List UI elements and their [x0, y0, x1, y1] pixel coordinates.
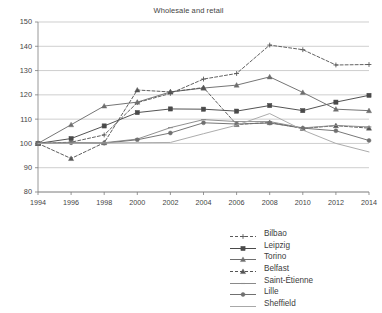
data-point-marker — [367, 62, 372, 67]
data-point-marker — [102, 124, 106, 128]
data-point-marker — [168, 131, 172, 135]
data-point-marker — [135, 138, 139, 142]
data-point-marker — [367, 139, 371, 143]
y-axis-tick-label: 100 — [10, 139, 32, 148]
series-path — [38, 123, 369, 144]
data-point-marker — [69, 122, 74, 127]
legend-marker-icon — [228, 286, 258, 297]
data-point-marker — [135, 110, 139, 114]
series-line-bilbao — [36, 43, 372, 146]
data-point-marker — [69, 141, 73, 145]
data-point-marker — [168, 107, 172, 111]
data-point-marker — [241, 293, 245, 297]
legend-marker-icon — [228, 263, 258, 274]
data-point-marker — [102, 133, 107, 138]
legend-item-torino[interactable]: Torino — [228, 251, 377, 263]
x-axis-tick-label: 2012 — [321, 198, 351, 207]
data-point-marker — [267, 43, 272, 48]
legend-label: Saint-Étienne — [258, 275, 313, 286]
y-axis-tick-label: 150 — [10, 17, 32, 26]
data-point-marker — [268, 103, 272, 107]
x-axis-tick-label: 1994 — [23, 198, 53, 207]
y-axis-tick-label: 80 — [10, 187, 32, 196]
x-axis-tick-label: 2002 — [155, 198, 185, 207]
data-point-marker — [300, 90, 305, 95]
x-axis-tick-label: 2010 — [288, 198, 318, 207]
data-point-marker — [235, 109, 239, 113]
x-axis-tick-label: 2014 — [354, 198, 382, 207]
data-point-marker — [201, 107, 205, 111]
data-point-marker — [334, 100, 338, 104]
legend-item-sheffield[interactable]: Sheffield — [228, 298, 377, 310]
x-axis-tick-label: 1998 — [89, 198, 119, 207]
data-point-marker — [69, 136, 73, 140]
data-point-marker — [301, 109, 305, 113]
data-point-marker — [300, 47, 305, 52]
data-point-marker — [268, 121, 272, 125]
data-point-marker — [267, 74, 272, 79]
legend-label: Torino — [258, 251, 286, 262]
series-path — [38, 45, 369, 143]
data-point-marker — [201, 85, 206, 90]
data-point-marker — [69, 156, 74, 161]
data-point-marker — [334, 63, 339, 68]
legend-marker-icon — [228, 275, 258, 286]
legend-item-lille[interactable]: Lille — [228, 286, 377, 298]
y-axis-tick-label: 110 — [10, 115, 32, 124]
x-axis-tick-label: 2006 — [222, 198, 252, 207]
legend-label: Sheffield — [258, 298, 296, 309]
y-axis-tick-label: 130 — [10, 66, 32, 75]
legend-item-bilbao[interactable]: Bilbao — [228, 228, 377, 240]
x-axis-tick-label: 2004 — [189, 198, 219, 207]
legend-marker-icon — [228, 240, 258, 251]
legend-marker-icon — [228, 298, 258, 309]
y-axis-tick-label: 90 — [10, 163, 32, 172]
x-axis-tick-label: 2000 — [122, 198, 152, 207]
x-axis-tick-label: 1996 — [56, 198, 86, 207]
legend-marker-icon — [228, 251, 258, 262]
legend-label: Belfast — [258, 263, 289, 274]
data-point-marker — [202, 121, 206, 125]
legend-item-belfast[interactable]: Belfast — [228, 263, 377, 275]
legend-item-leipzig[interactable]: Leipzig — [228, 240, 377, 252]
y-axis-tick-label: 140 — [10, 42, 32, 51]
legend-label: Leipzig — [258, 240, 290, 251]
legend-key-svg — [228, 301, 258, 312]
data-point-marker — [241, 234, 246, 239]
data-point-marker — [367, 93, 371, 97]
legend-label: Bilbao — [258, 228, 287, 239]
legend-label: Lille — [258, 286, 279, 297]
legend-marker-icon — [228, 228, 258, 239]
data-point-marker — [334, 129, 338, 133]
chart-legend: BilbaoLeipzigTorinoBelfastSaint-ÉtienneL… — [228, 228, 377, 309]
legend-item-saint-tienne[interactable]: Saint-Étienne — [228, 274, 377, 286]
data-point-marker — [241, 246, 245, 250]
x-axis-tick-label: 2008 — [255, 198, 285, 207]
data-point-marker — [201, 77, 206, 82]
y-axis-tick-label: 120 — [10, 90, 32, 99]
